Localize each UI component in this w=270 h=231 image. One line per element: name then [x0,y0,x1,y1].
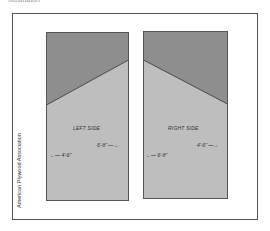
right-side-shape [143,31,228,199]
left-side-dim-left: ←— 4'-6" [50,152,71,158]
left-side-panel [46,32,129,201]
right-side-dim-left: ←— 6'-8" [146,152,167,158]
left-side-label: LEFT SIDE [73,125,100,131]
top-caption: Illustration [8,0,40,3]
right-side-dim-right: 4'-6" —→ [197,142,218,148]
left-side-dim-right: 6'-8" —→ [97,142,118,148]
right-side-label: RIGHT SIDE [168,125,199,131]
left-side-shape [46,32,129,201]
credit-text: American Plywood Association [16,133,22,208]
right-side-panel [143,31,228,199]
